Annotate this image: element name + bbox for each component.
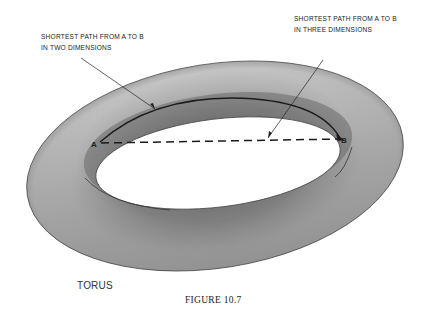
annotation-three-dimensions-line2: IN THREE DIMENSIONS [294,24,397,35]
annotation-two-dimensions-line2: IN TWO DIMENSIONS [41,42,144,53]
annotation-two-dimensions-line1: SHORTEST PATH FROM A TO B [41,31,144,42]
annotation-two-dimensions: SHORTEST PATH FROM A TO B IN TWO DIMENSI… [41,31,144,53]
point-b-label: B [341,136,347,145]
annotation-three-dimensions: SHORTEST PATH FROM A TO B IN THREE DIMEN… [294,13,397,35]
torus-label: TORUS [77,280,113,291]
point-a-label: A [91,140,97,149]
torus-body [11,36,418,297]
figure-caption: FIGURE 10.7 [185,295,242,305]
annotation-three-dimensions-line1: SHORTEST PATH FROM A TO B [294,13,397,24]
